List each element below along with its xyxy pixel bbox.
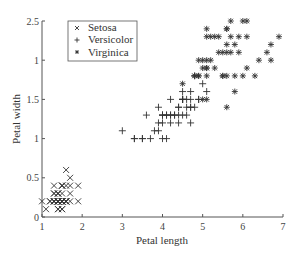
series-versicolor: [119, 72, 210, 142]
x-tick-label: 7: [281, 221, 286, 232]
y-tick-label: 2.5: [27, 16, 40, 27]
data-point: [155, 104, 162, 111]
data-point: [131, 135, 138, 142]
data-point: [159, 119, 166, 126]
data-point: [163, 135, 170, 142]
data-point: [187, 96, 194, 103]
data-point: [167, 119, 174, 126]
data-point: [147, 135, 154, 142]
data-point: [232, 89, 238, 95]
data-point: [236, 49, 242, 55]
data-point: [224, 42, 230, 48]
data-point: [252, 73, 258, 79]
data-point: [175, 119, 182, 126]
asterisk-marker-icon: [75, 50, 79, 54]
y-axis-label: Petal width: [10, 94, 22, 144]
data-point: [151, 127, 158, 134]
x-tick-label: 4: [160, 221, 165, 232]
data-point: [208, 34, 214, 40]
data-point: [232, 42, 238, 48]
data-point: [187, 119, 194, 126]
y-tick-label: 1: [34, 55, 39, 66]
x-tick-label: 1: [40, 221, 45, 232]
data-point: [167, 96, 174, 103]
data-point: [244, 65, 250, 71]
data-point: [224, 49, 230, 55]
data-point: [179, 88, 186, 95]
data-point: [75, 198, 81, 204]
data-point: [175, 104, 182, 111]
data-point: [55, 190, 61, 196]
data-point: [139, 135, 146, 142]
data-point: [192, 73, 198, 79]
data-point: [224, 104, 230, 110]
data-point: [196, 57, 202, 63]
series-virginica: [180, 18, 282, 110]
data-point: [75, 183, 81, 189]
data-point: [119, 127, 126, 134]
data-point: [55, 198, 61, 204]
data-point: [220, 73, 226, 79]
x-axis-label: Petal length: [136, 234, 189, 246]
data-point: [244, 18, 250, 24]
data-point: [208, 57, 214, 63]
data-point: [276, 34, 282, 40]
data-point: [236, 34, 242, 40]
data-point: [171, 112, 178, 119]
data-point: [180, 81, 186, 87]
data-point: [43, 206, 49, 212]
data-point: [163, 112, 170, 119]
data-point: [67, 175, 73, 181]
data-point: [228, 34, 234, 40]
data-point: [59, 183, 65, 189]
data-point: [55, 206, 61, 212]
data-point: [200, 65, 206, 71]
data-point: [256, 57, 262, 63]
data-point: [179, 96, 186, 103]
legend-label: Setosa: [88, 21, 117, 33]
legend-label: Versicolor: [88, 33, 134, 45]
data-point: [204, 73, 210, 79]
data-point: [268, 57, 274, 63]
data-point: [204, 26, 210, 32]
x-tick-label: 2: [80, 221, 85, 232]
x-tick-label: 6: [240, 221, 245, 232]
scatter-plot: 1234567 00.511.512.5 Petal length Petal …: [0, 0, 300, 257]
data-point: [203, 88, 210, 95]
x-tick-label: 5: [200, 221, 205, 232]
data-point: [264, 49, 270, 55]
legend: Setosa Versicolor Virginica: [68, 21, 137, 61]
data-point: [143, 112, 150, 119]
data-point: [183, 104, 190, 111]
y-tick-label: 0: [34, 212, 39, 223]
y-tick-label: 1: [34, 133, 39, 144]
y-tick-label: 0.5: [27, 172, 40, 183]
data-point: [244, 34, 250, 40]
data-point: [216, 34, 222, 40]
legend-label: Virginica: [88, 46, 129, 58]
data-point: [204, 96, 210, 102]
data-point: [216, 49, 222, 55]
data-point: [199, 80, 206, 87]
y-tick-label: 1.5: [27, 94, 40, 105]
data-point: [67, 190, 73, 196]
data-point: [228, 18, 234, 24]
data-point: [183, 112, 190, 119]
data-point: [187, 88, 194, 95]
data-point: [224, 26, 230, 32]
series-setosa: [39, 167, 81, 212]
data-point: [51, 183, 57, 189]
data-point: [240, 73, 246, 79]
data-point: [212, 65, 218, 71]
data-point: [191, 104, 198, 111]
data-point: [268, 42, 274, 48]
data-point: [232, 73, 238, 79]
x-tick-label: 3: [120, 221, 125, 232]
data-point: [63, 167, 69, 173]
